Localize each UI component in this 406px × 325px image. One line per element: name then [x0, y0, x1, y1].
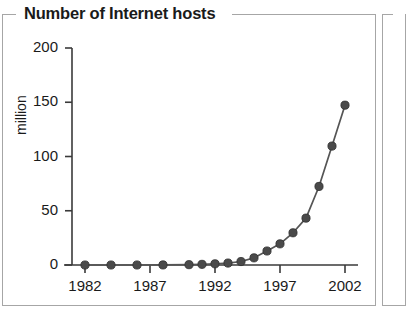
- y-axis-tick-label: 150: [16, 92, 58, 109]
- x-axis-tick-label: 1982: [57, 277, 113, 294]
- x-axis-tick-label: 1992: [187, 277, 243, 294]
- y-axis-tick-label: 200: [16, 38, 58, 55]
- y-axis-tick-label: 0: [16, 255, 58, 272]
- data-point: [81, 261, 89, 269]
- series-line: [85, 105, 345, 265]
- data-point: [159, 261, 167, 269]
- data-point: [107, 261, 115, 269]
- x-axis-tick-label: 1997: [252, 277, 308, 294]
- data-point: [133, 261, 141, 269]
- y-axis-tick-label: 50: [16, 201, 58, 218]
- data-point: [289, 229, 297, 237]
- data-point: [276, 240, 284, 248]
- data-point: [237, 257, 245, 265]
- data-point: [185, 261, 193, 269]
- data-point: [211, 260, 219, 268]
- y-axis-tick-label: 100: [16, 147, 58, 164]
- data-point: [263, 247, 271, 255]
- x-axis-tick-label: 1987: [122, 277, 178, 294]
- data-point: [198, 260, 206, 268]
- data-point: [328, 142, 336, 150]
- data-point: [224, 259, 232, 267]
- data-point: [341, 101, 349, 109]
- x-axis-tick-label: 2002: [317, 277, 373, 294]
- data-point: [302, 214, 310, 222]
- data-point: [250, 254, 258, 262]
- data-point: [315, 182, 323, 190]
